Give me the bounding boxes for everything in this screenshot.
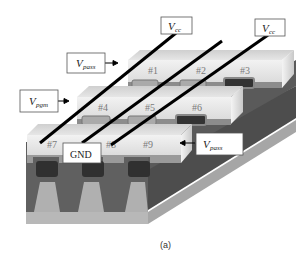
cell-1: #1 [148, 65, 158, 76]
cell-6: #6 [192, 102, 202, 113]
svg-text:pass: pass [209, 144, 223, 152]
svg-text:GND: GND [70, 149, 92, 160]
svg-text:pgm: pgm [35, 101, 48, 109]
label-vpgm: V pgm [20, 90, 58, 112]
label-vpass-right: V pass [196, 133, 243, 155]
label-gnd: GND [63, 143, 101, 163]
arrow-right-icon [113, 61, 118, 66]
svg-text:cc: cc [175, 26, 182, 34]
cell-4: #4 [98, 102, 108, 113]
svg-text:pass: pass [82, 63, 96, 71]
label-vcc-2: V cc [255, 19, 285, 36]
arrow-right-icon [64, 99, 69, 104]
cell-5: #5 [145, 102, 155, 113]
cell-9: #9 [143, 139, 153, 150]
label-vcc-1: V cc [161, 17, 192, 34]
wordline-row-back: #1 #2 #3 [128, 50, 294, 88]
cell-3: #3 [240, 65, 250, 76]
label-vpass-top: V pass [67, 53, 105, 73]
nand-array-diagram: #1 #2 #3 #4 #5 #6 #7 #8 #9 [0, 0, 302, 263]
cell-7: #7 [47, 139, 57, 150]
cell-2: #2 [196, 65, 206, 76]
figure-caption: (a) [160, 240, 171, 250]
svg-text:cc: cc [269, 28, 276, 36]
